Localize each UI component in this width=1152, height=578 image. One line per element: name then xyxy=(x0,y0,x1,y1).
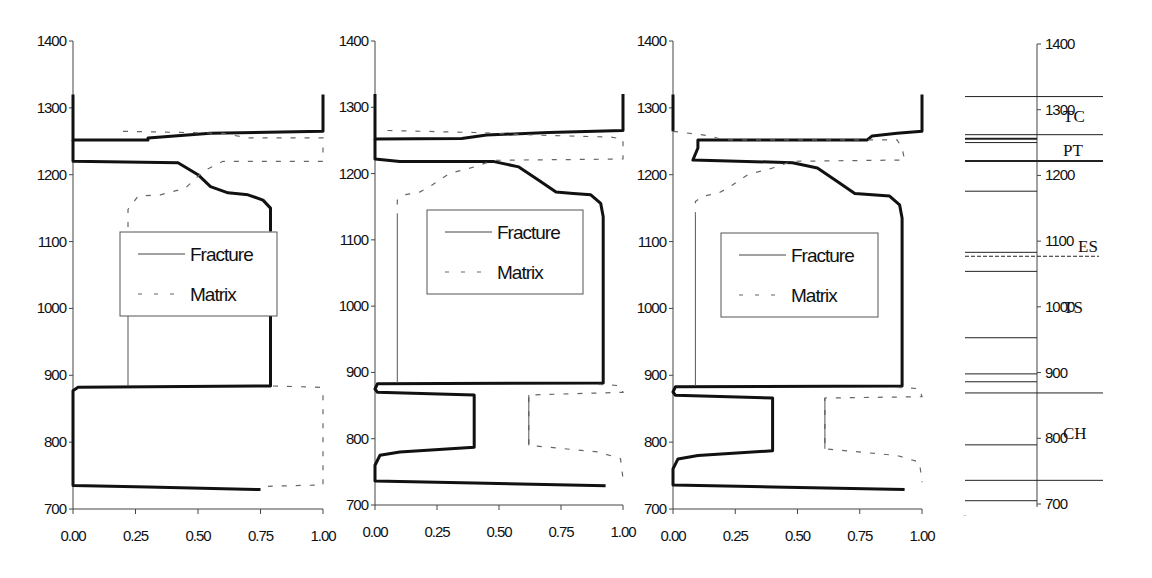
unit-label-pt: PT xyxy=(1063,141,1083,160)
legend: FractureMatrix xyxy=(721,233,878,317)
matrix-curve xyxy=(529,384,623,478)
y-tick-label: 800 xyxy=(346,430,369,447)
x-tick-label: 0.75 xyxy=(248,527,274,544)
fracture-curve xyxy=(73,140,271,232)
x-tick-label: 0.00 xyxy=(362,523,388,540)
unit-label-ts: TS xyxy=(1063,298,1083,317)
y-tick-label: 1200 xyxy=(37,166,67,183)
panel-3: 700800900100011001200130014000.000.250.5… xyxy=(637,32,936,544)
x-tick-label: 0.50 xyxy=(785,527,811,544)
y-tick-label: 700 xyxy=(346,496,369,513)
figure-canvas: 700800900100011001200130014000.000.250.5… xyxy=(0,0,1152,578)
y-tick-label: 900 xyxy=(44,366,67,383)
x-tick-label: 0.50 xyxy=(185,527,211,544)
y-tick-label: 1200 xyxy=(339,165,369,182)
x-tick-label: 1.00 xyxy=(310,527,336,544)
legend-fracture-label: Fracture xyxy=(791,245,854,266)
fracture-curve xyxy=(73,308,271,489)
y-tick-label: 800 xyxy=(44,433,67,450)
y-tick-label: 1100 xyxy=(638,233,667,250)
legend-matrix-label: Matrix xyxy=(190,284,237,305)
legend: FractureMatrix xyxy=(427,210,583,294)
stratigraphic-column: 70080090010001100120013001400TCPTESTSCH.… xyxy=(963,35,1103,518)
y-tick-label: 700 xyxy=(644,500,667,517)
matrix-curve xyxy=(825,387,922,482)
y-tick-label: 1400 xyxy=(339,32,369,49)
x-tick-label: 0.50 xyxy=(486,523,512,540)
y-tick-label: 1300 xyxy=(339,98,369,115)
legend-matrix-label: Matrix xyxy=(497,262,544,283)
y-tick-label: 1100 xyxy=(38,233,67,250)
depth-tick-label: 1100 xyxy=(1045,232,1074,249)
depth-tick-label: 1400 xyxy=(1045,35,1075,52)
depth-tick-label: 900 xyxy=(1045,364,1068,381)
y-tick-label: 1300 xyxy=(37,99,67,116)
depth-tick-label: 700 xyxy=(1045,495,1068,512)
legend: FractureMatrix xyxy=(120,232,277,316)
x-tick-label: 1.00 xyxy=(610,523,636,540)
x-tick-label: 0.25 xyxy=(424,523,450,540)
y-tick-label: 700 xyxy=(44,500,67,517)
y-tick-label: 1000 xyxy=(339,297,369,314)
fracture-curve xyxy=(375,94,623,139)
y-tick-label: 1200 xyxy=(637,166,667,183)
legend-fracture-label: Fracture xyxy=(497,222,560,243)
x-tick-label: 0.00 xyxy=(60,527,86,544)
matrix-curve xyxy=(268,386,323,486)
legend-matrix-label: Matrix xyxy=(791,285,838,306)
panel-2: 700800900100011001200130014000.000.250.5… xyxy=(339,32,637,540)
x-tick-label: 0.75 xyxy=(548,523,574,540)
unit-label-es: ES xyxy=(1078,237,1098,256)
x-tick-label: 0.25 xyxy=(123,527,149,544)
fracture-curve xyxy=(73,95,323,140)
matrix-curve xyxy=(123,131,323,231)
depth-tick-label: 1200 xyxy=(1045,166,1075,183)
panel-1: 700800900100011001200130014000.000.250.5… xyxy=(37,32,337,544)
legend-fracture-label: Fracture xyxy=(190,244,253,265)
fracture-curve xyxy=(375,139,606,486)
x-tick-label: 1.00 xyxy=(909,527,935,544)
y-tick-label: 1300 xyxy=(637,99,667,116)
y-tick-label: 900 xyxy=(346,363,369,380)
x-tick-label: 0.75 xyxy=(847,527,873,544)
x-tick-label: 0.00 xyxy=(660,527,686,544)
matrix-curve xyxy=(387,131,623,214)
y-tick-label: 800 xyxy=(644,433,667,450)
column-base-mark: .. xyxy=(963,509,966,518)
unit-label-tc: TC xyxy=(1063,107,1085,126)
y-tick-label: 1400 xyxy=(637,32,667,49)
unit-label-ch: CH xyxy=(1063,424,1087,443)
y-tick-label: 900 xyxy=(644,366,667,383)
y-tick-label: 1000 xyxy=(37,299,67,316)
matrix-curve xyxy=(673,131,905,215)
x-tick-label: 0.25 xyxy=(723,527,749,544)
y-tick-label: 1100 xyxy=(340,231,369,248)
y-tick-label: 1400 xyxy=(37,32,67,49)
y-tick-label: 1000 xyxy=(637,299,667,316)
